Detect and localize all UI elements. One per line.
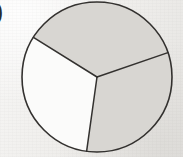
figure-root: ) <box>0 0 183 157</box>
pie-diagram <box>0 0 183 157</box>
